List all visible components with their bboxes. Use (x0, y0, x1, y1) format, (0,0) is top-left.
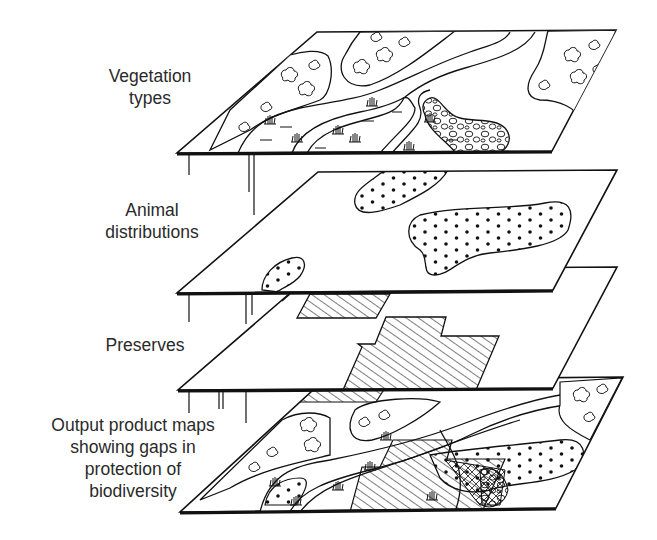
label-line: Preserves (106, 334, 185, 356)
label-line: distributions (105, 221, 198, 243)
label-line: Vegetation (109, 65, 192, 87)
layer-stubs (189, 154, 254, 215)
label-line: types (109, 87, 192, 109)
label-line: protection of (51, 458, 214, 480)
label-line: biodiversity (51, 480, 214, 502)
label-output-product-maps: Output product maps showing gaps in prot… (51, 414, 214, 502)
label-line: Animal (105, 199, 198, 221)
layer-stubs (189, 294, 252, 324)
label-line: showing gaps in (51, 436, 214, 458)
label-preserves: Preserves (106, 334, 185, 356)
label-line: Output product maps (51, 414, 214, 436)
label-vegetation-types: Vegetation types (109, 65, 192, 109)
label-animal-distributions: Animal distributions (105, 199, 198, 243)
